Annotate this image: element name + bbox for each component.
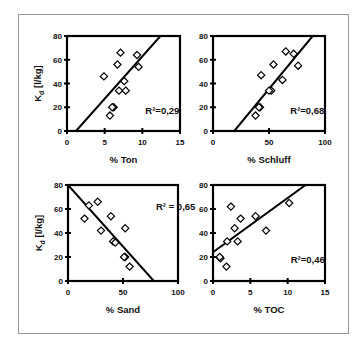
chart-canvas: 020406080051015R²=0,29% TonKd [l/kg]0204… bbox=[0, 0, 364, 347]
x-tick-label: 0 bbox=[66, 288, 71, 297]
x-tick-label: 5 bbox=[248, 288, 253, 297]
y-tick-label: 0 bbox=[58, 127, 63, 136]
scatter-panel-1: 020406080051015R²=0,29% TonKd [l/kg] bbox=[32, 32, 185, 165]
x-tick-label: 0 bbox=[211, 138, 216, 147]
y-tick-label: 80 bbox=[199, 32, 208, 41]
y-tick-label: 40 bbox=[199, 80, 208, 89]
y-tick-label: 80 bbox=[53, 32, 62, 41]
plot-area bbox=[213, 36, 325, 131]
y-tick-label: 40 bbox=[54, 229, 63, 238]
y-tick-label: 60 bbox=[199, 56, 208, 65]
y-axis-title: Kd [l/kg] bbox=[33, 215, 46, 252]
r-squared-annotation: R²=0,46 bbox=[291, 254, 325, 265]
y-tick-label: 20 bbox=[54, 253, 63, 262]
x-axis-title: % Schluff bbox=[247, 154, 291, 165]
y-axis-title: Kd [l/kg] bbox=[32, 65, 45, 102]
x-tick-label: 100 bbox=[318, 138, 332, 147]
x-tick-label: 10 bbox=[283, 288, 292, 297]
scatter-panel-3: 020406080050100R² = 0,65% SandKd [l/kg] bbox=[33, 181, 196, 315]
x-axis-title: % TOC bbox=[254, 304, 285, 315]
y-tick-label: 60 bbox=[54, 205, 63, 214]
x-tick-label: 5 bbox=[102, 138, 107, 147]
x-tick-label: 50 bbox=[119, 288, 128, 297]
x-tick-label: 15 bbox=[321, 288, 330, 297]
y-tick-label: 20 bbox=[53, 103, 62, 112]
x-tick-label: 10 bbox=[138, 138, 147, 147]
y-tick-label: 40 bbox=[199, 229, 208, 238]
scatter-panel-2: 020406080050100R²=0,68% Schluff bbox=[199, 32, 332, 165]
y-tick-label: 0 bbox=[59, 277, 64, 286]
y-tick-label: 80 bbox=[199, 181, 208, 190]
y-tick-label: 60 bbox=[53, 56, 62, 65]
x-axis-title: % Ton bbox=[110, 154, 138, 165]
x-tick-label: 100 bbox=[171, 288, 185, 297]
y-tick-label: 0 bbox=[204, 127, 209, 136]
r-squared-annotation: R²=0,68 bbox=[290, 105, 324, 116]
y-tick-label: 40 bbox=[53, 80, 62, 89]
y-tick-label: 80 bbox=[54, 181, 63, 190]
y-tick-label: 20 bbox=[199, 103, 208, 112]
x-axis-title: % Sand bbox=[106, 304, 141, 315]
y-tick-label: 60 bbox=[199, 205, 208, 214]
r-squared-annotation: R² = 0,65 bbox=[156, 201, 196, 212]
plot-area bbox=[68, 185, 178, 281]
y-tick-label: 20 bbox=[199, 253, 208, 262]
x-tick-label: 0 bbox=[211, 288, 216, 297]
y-tick-label: 0 bbox=[204, 277, 209, 286]
scatter-panel-4: 020406080051015R²=0,46% TOC bbox=[199, 181, 330, 315]
x-tick-label: 15 bbox=[176, 138, 185, 147]
r-squared-annotation: R²=0,29 bbox=[145, 105, 179, 116]
x-tick-label: 50 bbox=[265, 138, 274, 147]
x-tick-label: 0 bbox=[65, 138, 70, 147]
